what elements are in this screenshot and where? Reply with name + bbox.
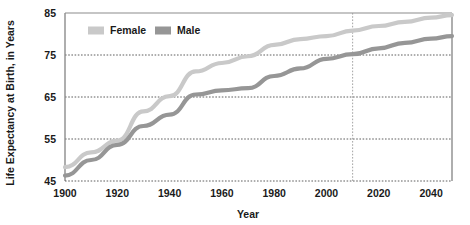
- y-tick-label-55: 55: [44, 133, 56, 145]
- life-expectancy-chart: 4555657585 19001920194019601980200020202…: [0, 0, 470, 225]
- chart-canvas: 4555657585 19001920194019601980200020202…: [0, 0, 470, 225]
- x-tick-label-1940: 1940: [158, 187, 182, 199]
- legend-swatch-male: [155, 27, 171, 35]
- y-tick-label-75: 75: [44, 49, 56, 61]
- legend-label-male: Male: [177, 24, 201, 36]
- x-tick-label-1980: 1980: [263, 187, 287, 199]
- x-tick-label-2000: 2000: [315, 187, 339, 199]
- x-tick-label-1900: 1900: [53, 187, 77, 199]
- y-tick-label-45: 45: [44, 175, 56, 187]
- x-tick-label-2040: 2040: [419, 187, 443, 199]
- x-tick-label-2020: 2020: [367, 187, 391, 199]
- y-tick-label-85: 85: [44, 7, 56, 19]
- x-axis-title: Year: [237, 208, 259, 220]
- y-tick-label-65: 65: [44, 91, 56, 103]
- x-tick-label-1920: 1920: [106, 187, 130, 199]
- y-axis-title: Life Expectancy at Birth, in Years: [4, 20, 16, 186]
- x-tick-label-1960: 1960: [210, 187, 234, 199]
- legend-swatch-female: [88, 27, 104, 35]
- legend-label-female: Female: [110, 24, 146, 36]
